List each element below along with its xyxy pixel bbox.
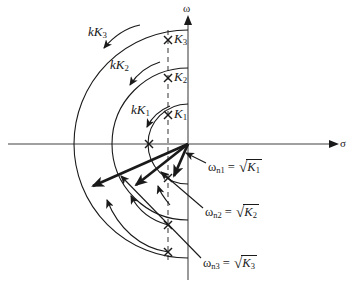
pole-label-K2-base: K	[174, 69, 183, 84]
equation-omega-n2-radicand-sub: 2	[253, 210, 257, 220]
equation-omega-n1: ωn1 = √K1	[208, 159, 262, 175]
gain-label-kK2-base: kK	[110, 57, 124, 72]
gain-label-kK3-sub: 3	[102, 30, 106, 40]
pole-label-K1-base: K	[174, 106, 183, 121]
pole-label-K3-base: K	[174, 31, 183, 46]
equation-omega-n2-equals: =	[225, 205, 232, 219]
equation-omega-n2-sqrt: √K2	[235, 204, 259, 220]
equation-omega-n3-omega: ω	[203, 256, 211, 270]
equation-omega-n2-omega: ω	[205, 205, 213, 219]
real-axis-label: σ	[340, 138, 346, 149]
leader-omega-n1	[186, 153, 206, 163]
gain-label-kK1-base: kK	[131, 102, 145, 117]
equation-omega-n3: ωn3 = √K3	[203, 255, 257, 271]
radical-sign-icon: √	[236, 205, 244, 220]
pole-label-K2: K2	[174, 70, 187, 85]
equation-omega-n1-omega: ω	[208, 160, 216, 174]
equation-omega-n2: ωn2 = √K2	[205, 204, 259, 220]
pole-label-K3: K3	[174, 32, 187, 47]
pole-label-K3-sub: 3	[183, 37, 187, 47]
radical-sign-icon: √	[234, 256, 242, 271]
equation-omega-n3-radicand: K3	[241, 255, 257, 271]
equation-omega-n3-radicand-base: K	[242, 256, 250, 270]
leader-omega-n3	[121, 176, 201, 258]
equation-omega-n1-sqrt: √K1	[238, 159, 262, 175]
gain-label-kK3-base: kK	[88, 24, 102, 39]
equation-omega-n3-sqrt: √K3	[233, 255, 257, 271]
equation-omega-n2-radicand: K2	[243, 204, 259, 220]
gain-label-kK2-sub: 2	[124, 63, 128, 73]
equation-omega-n3-radicand-sub: 3	[251, 261, 255, 271]
equation-omega-n1-radicand-sub: 1	[256, 165, 260, 175]
pole-label-K1: K1	[174, 107, 187, 122]
equation-omega-n2-sub: n2	[213, 210, 222, 220]
equation-omega-n2-radicand-base: K	[244, 205, 252, 219]
equation-omega-n3-equals: =	[223, 256, 230, 270]
locus-arrow-lower-1	[107, 200, 168, 252]
root-locus-figure: ω σ K3 K2 K1 kK3 kK2 kK1 ωn1 = √K1 ωn2 =…	[0, 0, 356, 287]
vector-omega-n3	[93, 144, 188, 186]
gain-arrow-kK3	[104, 25, 140, 48]
radical-sign-icon: √	[239, 160, 247, 175]
pole-label-K2-sub: 2	[183, 75, 187, 85]
gain-label-kK3: kK3	[88, 25, 107, 40]
equation-omega-n1-radicand-base: K	[247, 160, 255, 174]
equation-omega-n1-sub: n1	[216, 165, 225, 175]
gain-label-kK1-sub: 1	[145, 108, 149, 118]
equation-omega-n1-radicand: K1	[246, 159, 262, 175]
equation-omega-n3-sub: n3	[211, 261, 220, 271]
gain-label-kK2: kK2	[110, 58, 129, 73]
imaginary-axis-label: ω	[183, 3, 190, 14]
equation-omega-n1-equals: =	[228, 160, 235, 174]
pole-label-K1-sub: 1	[183, 112, 187, 122]
gain-label-kK1: kK1	[131, 103, 150, 118]
